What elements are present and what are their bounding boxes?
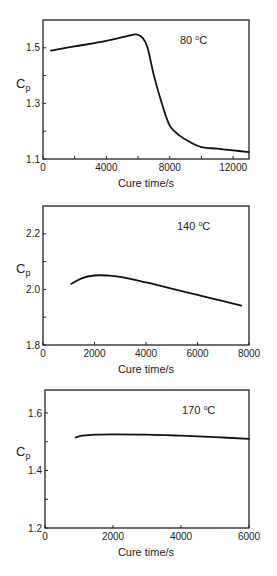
chart-170c: 0200040006000 1.21.41.6 170 oC Cp Cure t… [16, 390, 261, 558]
x-tick-label: 8000 [238, 348, 261, 359]
x-tick-label: 8000 [159, 162, 182, 173]
y-tick-label: 1.6 [28, 408, 42, 419]
temperature-annotation: 170 oC [182, 404, 215, 416]
figure-canvas: 04000800012000 1.11.31.5 80 oC Cp Cure t… [0, 0, 277, 576]
x-tick-label: 6000 [186, 348, 209, 359]
y-tick-label: 1.4 [28, 465, 42, 476]
x-tick-label: 4000 [170, 531, 193, 542]
temperature-annotation: 140 oC [177, 220, 210, 232]
y-tick-label: 1.5 [26, 42, 40, 53]
chart-140c: 02000400060008000 1.82.02.2 140 oC Cp Cu… [16, 206, 261, 375]
data-curve [51, 34, 249, 152]
x-tick-label: 0 [40, 162, 46, 173]
temperature-annotation: 80 oC [180, 34, 207, 46]
y-axis-label: Cp [16, 76, 30, 93]
x-tick-label: 2000 [102, 531, 125, 542]
data-curve [71, 275, 241, 305]
x-tick-label: 4000 [135, 348, 158, 359]
plot-frame [43, 206, 249, 345]
x-tick-label: 2000 [83, 348, 106, 359]
y-axis-label: Cp [16, 261, 30, 278]
y-tick-label: 1.1 [26, 154, 40, 165]
plot-frame [45, 390, 249, 528]
y-tick-label: 1.3 [26, 98, 40, 109]
data-curve [76, 434, 249, 439]
y-tick-label: 2.0 [26, 284, 40, 295]
x-tick-label: 0 [42, 531, 48, 542]
y-axis-label: Cp [16, 444, 30, 461]
plot-frame [43, 20, 249, 159]
x-tick-label: 0 [40, 348, 46, 359]
y-tick-label: 1.8 [26, 340, 40, 351]
x-axis-label: Cure time/s [118, 177, 175, 189]
x-tick-label: 4000 [95, 162, 118, 173]
x-axis-label: Cure time/s [118, 546, 175, 558]
x-tick-label: 12000 [219, 162, 247, 173]
y-tick-label: 2.2 [26, 228, 40, 239]
chart-80c: 04000800012000 1.11.31.5 80 oC Cp Cure t… [16, 20, 249, 189]
y-tick-label: 1.2 [28, 523, 42, 534]
x-axis-label: Cure time/s [118, 363, 175, 375]
x-tick-label: 6000 [238, 531, 261, 542]
